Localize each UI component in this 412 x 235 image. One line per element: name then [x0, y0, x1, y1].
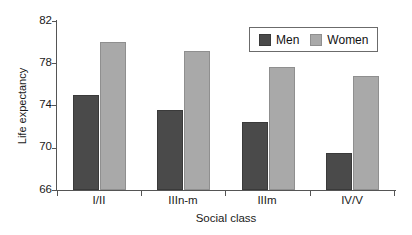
y-tick-label: 70: [18, 141, 52, 153]
bar-women-iiin-m: [184, 51, 210, 190]
bar-women-iv-v: [353, 76, 379, 190]
bar-chart: Life expectancy 82 78 74 70 66 I/II IIIn…: [0, 0, 412, 235]
x-tick-label-2: IIIm: [232, 194, 302, 206]
y-tick-label: 78: [18, 57, 52, 69]
x-tick-mark: [225, 191, 226, 196]
x-tick-label-3: IV/V: [317, 194, 387, 206]
chart-legend: Men Women: [249, 27, 378, 52]
bar-women-iiim: [269, 67, 295, 190]
y-tick-label: 82: [18, 15, 52, 27]
x-tick-label-1: IIIn-m: [148, 194, 218, 206]
legend-entry-women: Women: [310, 34, 368, 46]
x-axis-title: Social class: [57, 212, 395, 224]
bar-men-iv-v: [326, 153, 352, 190]
x-tick-label-0: I/II: [64, 194, 134, 206]
x-axis-line: [56, 190, 396, 191]
bar-men-iiim: [242, 122, 268, 190]
legend-swatch-men-icon: [259, 34, 271, 46]
x-tick-mark: [394, 191, 395, 196]
legend-label-men: Men: [276, 34, 299, 46]
bar-men-i-ii: [73, 95, 99, 190]
bar-men-iiin-m: [157, 110, 183, 190]
x-tick-mark: [57, 191, 58, 196]
legend-swatch-women-icon: [310, 34, 322, 46]
y-axis-tick-labels: 82 78 74 70 66: [12, 0, 52, 235]
x-tick-mark: [310, 191, 311, 196]
y-tick-label: 74: [18, 99, 52, 111]
legend-entry-men: Men: [259, 34, 299, 46]
legend-label-women: Women: [327, 34, 368, 46]
bar-women-i-ii: [100, 42, 126, 190]
x-tick-mark: [141, 191, 142, 196]
y-tick-label: 66: [18, 184, 52, 196]
